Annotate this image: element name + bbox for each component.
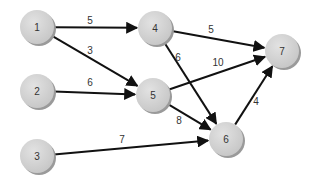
node-2: 2	[20, 74, 56, 110]
node-7: 7	[265, 34, 301, 70]
edge-weight-label: 6	[175, 52, 181, 63]
edge-weight-label: 5	[87, 15, 93, 26]
network-diagram: 5367561084 1234567	[0, 0, 312, 180]
edge-1-5	[52, 36, 138, 86]
node-label: 5	[150, 90, 156, 101]
node-4: 4	[138, 11, 174, 47]
edge-2-5	[54, 92, 135, 95]
edge-3-6	[54, 141, 208, 155]
node-label: 3	[34, 151, 40, 162]
node-5: 5	[136, 78, 172, 114]
node-3: 3	[20, 139, 56, 175]
edge-weight-label: 8	[176, 115, 182, 126]
edge-1-4	[54, 27, 137, 28]
node-label: 2	[34, 86, 40, 97]
edge-weight-label: 6	[87, 77, 93, 88]
node-label: 6	[223, 134, 229, 145]
node-1: 1	[20, 10, 56, 46]
edge-4-7	[172, 31, 265, 48]
node-6: 6	[209, 122, 245, 158]
edge-weight-label: 10	[212, 57, 224, 68]
edge-weight-label: 5	[208, 24, 214, 35]
node-label: 7	[279, 46, 285, 57]
edge-5-6	[168, 104, 211, 130]
node-label: 1	[34, 22, 40, 33]
edge-weight-label: 4	[253, 96, 259, 107]
node-label: 4	[152, 23, 158, 34]
edge-weight-label: 3	[87, 45, 93, 56]
edge-weight-label: 7	[119, 134, 125, 145]
